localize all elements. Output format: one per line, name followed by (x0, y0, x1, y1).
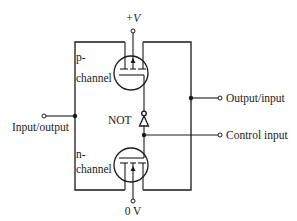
transmission-gate-diagram: +V 0 V p- channel n- channel NOT Input/o… (0, 0, 297, 221)
positive-supply-label: +V (126, 12, 143, 24)
positive-supply-terminal (131, 29, 135, 33)
p-mosfet-arrow (131, 58, 136, 63)
p-channel-label-line1: p- (76, 51, 86, 64)
control-input-label: Control input (226, 129, 288, 142)
output-junction-dot (189, 96, 193, 100)
n-channel-label-line1: n- (76, 148, 86, 160)
not-gate-label: NOT (108, 114, 132, 126)
not-gate-triangle (140, 116, 149, 126)
ground-terminal (131, 199, 135, 203)
right-rail-wire (143, 42, 191, 190)
input-output-label: Input/output (12, 121, 70, 134)
input-output-wire (42, 114, 77, 118)
control-input-terminal (218, 133, 222, 137)
output-input-wire (189, 96, 222, 100)
input-output-terminal (42, 114, 46, 118)
input-junction-dot (73, 114, 77, 118)
ground-label: 0 V (125, 205, 142, 217)
control-junction-dot (142, 133, 146, 137)
n-channel-label-line2: channel (76, 163, 112, 175)
output-input-label: Output/input (226, 92, 286, 105)
n-mosfet-arrow (131, 166, 136, 171)
n-channel-mosfet (114, 148, 148, 199)
not-gate (140, 111, 149, 126)
p-channel-label-line2: channel (76, 72, 112, 84)
output-input-terminal (218, 96, 222, 100)
control-input-wire (142, 133, 222, 137)
